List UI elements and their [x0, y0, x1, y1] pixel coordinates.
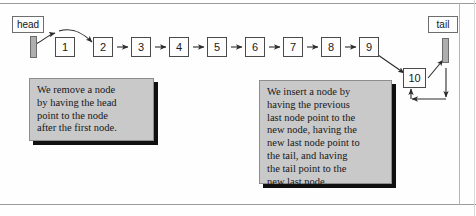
page-rule-right [459, 3, 460, 205]
page-rule-top [0, 3, 476, 4]
page-rule-bottom [0, 204, 476, 205]
note-left-line: We remove a node [37, 84, 147, 97]
list-node: 10 [403, 68, 426, 88]
note-right-line: last node point to the [267, 112, 385, 125]
list-node: 7 [283, 37, 303, 57]
note-left-line: by having the head [37, 97, 147, 110]
page-rule-right-outer [474, 0, 475, 216]
note-right-line: We insert a node by [267, 86, 385, 99]
list-node-value: 3 [138, 42, 144, 53]
list-node-value: 6 [252, 42, 258, 53]
list-node-value: 1 [62, 42, 68, 53]
list-node: 9 [359, 37, 379, 57]
list-node: 1 [55, 37, 75, 57]
note-right-line: having the previous [267, 99, 385, 112]
note-left: We remove a node by having the head poin… [29, 78, 154, 141]
note-right-line: new last node. [267, 176, 385, 189]
note-right: We insert a node by having the previous … [259, 80, 392, 184]
list-node: 6 [245, 37, 265, 57]
list-node-value: 4 [176, 42, 182, 53]
arrow-node-9-to-node-10 [378, 55, 404, 73]
arrow-node-10-to-tail [428, 60, 443, 78]
head-pointer-box: head [12, 16, 44, 33]
list-node: 5 [207, 37, 227, 57]
list-node-value: 5 [214, 42, 220, 53]
tail-pointer-box: tail [428, 16, 458, 33]
figure-canvas: head tail 1 2 3 4 5 6 7 8 9 10 We remove… [0, 0, 476, 216]
note-left-line: point to the node [37, 110, 147, 123]
list-node: 8 [321, 37, 341, 57]
note-right-line: new node, having the [267, 124, 385, 137]
list-node-value: 7 [290, 42, 296, 53]
list-node: 2 [93, 37, 113, 57]
arrow-head-to-curve-start [36, 33, 55, 44]
head-pointer-cell [30, 36, 37, 58]
note-right-line: the tail, and having [267, 150, 385, 163]
list-node-value: 2 [100, 42, 106, 53]
note-left-line: after the first node. [37, 122, 147, 135]
tail-pointer-label: tail [437, 19, 450, 30]
note-right-line: the tail point to the [267, 163, 385, 176]
list-node: 4 [169, 37, 189, 57]
list-node: 3 [131, 37, 151, 57]
note-right-line: new last node point to [267, 137, 385, 150]
list-node-value: 9 [366, 42, 372, 53]
head-pointer-label: head [17, 19, 39, 30]
tail-pointer-cell [442, 38, 449, 63]
list-node-value: 8 [328, 42, 334, 53]
list-node-value: 10 [408, 73, 420, 84]
